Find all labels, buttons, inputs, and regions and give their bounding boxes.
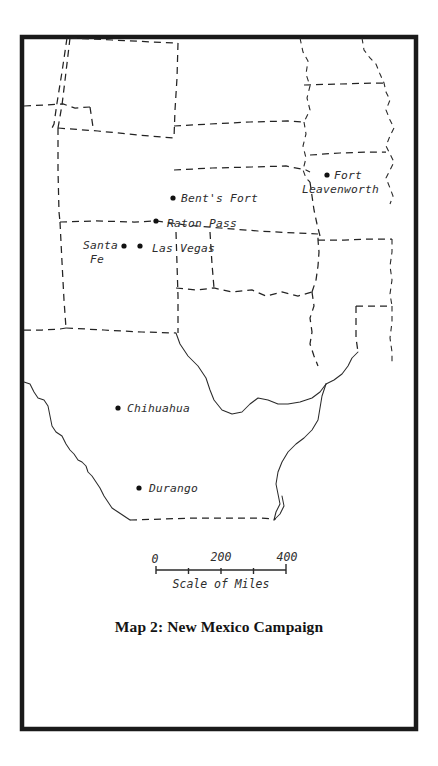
city-label-las-vegas: Las Vegas: [152, 242, 215, 255]
city-label-fort-leavenworth-line1: Fort: [334, 169, 362, 182]
city-dot-raton-pass[interactable]: [153, 218, 158, 223]
city-label-santa-fe-line2: Fe: [90, 253, 104, 266]
city-dot-bents-fort[interactable]: [170, 195, 175, 200]
city-label-chihuahua: Chihuahua: [127, 402, 190, 415]
map-title: Map 2: New Mexico Campaign: [115, 618, 324, 635]
city-bents-fort[interactable]: Bent's Fort: [170, 192, 258, 205]
scale-label-200: 200: [211, 550, 232, 564]
city-dot-santa-fe[interactable]: [121, 243, 126, 248]
scale-label-0: 0: [152, 552, 159, 566]
map-page: Bent's Fort Fort Leavenworth Raton Pass …: [0, 0, 438, 766]
city-dot-durango[interactable]: [136, 485, 141, 490]
city-label-santa-fe-line1: Santa: [83, 239, 118, 252]
city-dot-fort-leavenworth[interactable]: [324, 172, 329, 177]
city-chihuahua[interactable]: Chihuahua: [115, 402, 190, 415]
city-label-raton-pass: Raton Pass: [167, 217, 237, 230]
city-dot-chihuahua[interactable]: [115, 405, 120, 410]
city-label-bents-fort: Bent's Fort: [181, 192, 258, 205]
city-label-fort-leavenworth-line2: Leavenworth: [302, 183, 379, 196]
scale-bar-caption: Scale of Miles: [173, 577, 270, 591]
scale-label-400: 400: [277, 550, 298, 564]
map-figure: Bent's Fort Fort Leavenworth Raton Pass …: [0, 0, 438, 766]
city-dot-las-vegas[interactable]: [137, 243, 142, 248]
city-label-durango: Durango: [148, 482, 198, 495]
